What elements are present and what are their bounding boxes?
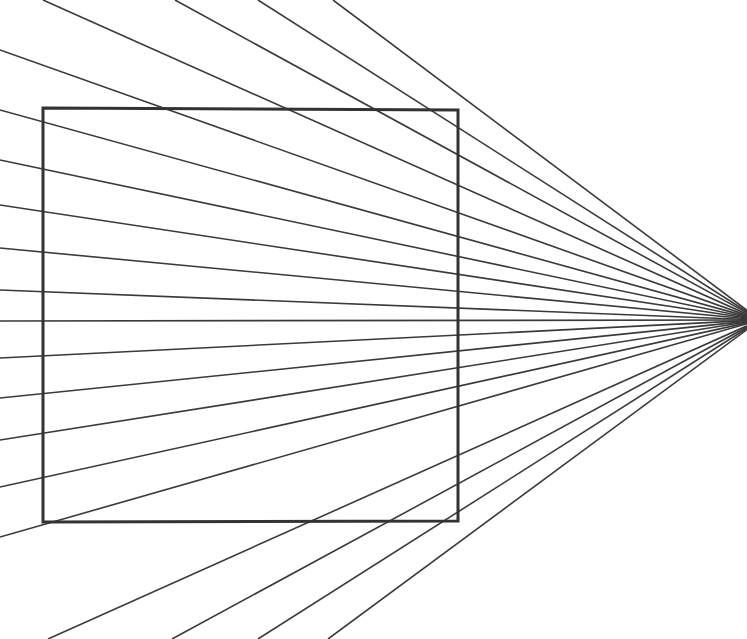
- left-edge-horizon-ray: [0, 320, 747, 321]
- figure-root: [0, 0, 747, 639]
- perspective-drawing-canvas: [0, 0, 747, 639]
